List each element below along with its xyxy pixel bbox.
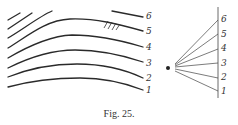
right-label-3: 3 bbox=[221, 58, 227, 68]
curve-1 bbox=[8, 78, 143, 90]
right-label-1: 1 bbox=[221, 86, 227, 96]
left-label-5: 5 bbox=[146, 26, 152, 36]
focal-point bbox=[166, 66, 170, 70]
left-label-2: 2 bbox=[145, 73, 152, 83]
ray-5 bbox=[175, 34, 218, 65]
left-label-6: 6 bbox=[146, 11, 152, 21]
left-label-1: 1 bbox=[146, 85, 152, 95]
curve-3 bbox=[8, 50, 143, 68]
left-label-4: 4 bbox=[145, 42, 152, 52]
curve-6-tail bbox=[112, 11, 143, 17]
figure-caption: Fig. 25. bbox=[104, 108, 135, 119]
curve-stroke-b bbox=[8, 13, 32, 29]
ray-2 bbox=[175, 69, 218, 78]
ray-1 bbox=[175, 71, 218, 91]
right-label-4: 4 bbox=[220, 43, 227, 53]
curve-4 bbox=[8, 35, 143, 58]
ray-fan bbox=[166, 7, 218, 98]
right-label-6: 6 bbox=[221, 14, 227, 24]
curve-2 bbox=[8, 64, 143, 78]
right-label-2: 2 bbox=[220, 72, 227, 82]
left-labels: 6 5 4 3 2 1 bbox=[145, 11, 152, 95]
curve-stroke-a bbox=[8, 13, 20, 20]
curve-5 bbox=[8, 19, 143, 48]
right-labels: 6 5 4 3 2 1 bbox=[220, 14, 227, 96]
figure-25: 6 5 4 3 2 1 6 5 4 3 2 1 Fig. 25. bbox=[0, 0, 238, 125]
curve-family bbox=[8, 11, 143, 90]
left-label-3: 3 bbox=[146, 58, 152, 68]
right-label-5: 5 bbox=[221, 29, 227, 39]
